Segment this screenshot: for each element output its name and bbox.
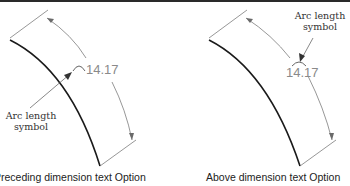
leader-line-right <box>302 38 313 58</box>
dimension-text-right: 14.17 <box>286 65 319 80</box>
dimension-arc-lower-left <box>112 82 132 140</box>
dimension-arc-lower-right <box>308 76 332 140</box>
left-panel <box>10 10 136 166</box>
leader-line-left <box>30 74 70 108</box>
caption-left: Preceding dimension text Option <box>0 171 146 183</box>
dimension-text-left: 14.17 <box>86 62 119 77</box>
dimension-arc-upper-right <box>246 18 290 58</box>
extension-line-bottom-left <box>100 140 136 166</box>
extension-line-top-left <box>10 10 48 38</box>
dimension-arc-upper-left <box>47 18 86 58</box>
arc-length-symbol-left <box>73 66 85 71</box>
callout-line1-left: Arc length <box>5 110 57 121</box>
callout-line1-right: Arc length <box>294 10 346 21</box>
right-panel <box>209 10 336 166</box>
caption-right: Above dimension text Option <box>206 171 340 183</box>
extension-line-top-right <box>209 10 247 38</box>
object-arc-right <box>209 40 300 166</box>
extension-line-bottom-right <box>300 140 336 166</box>
callout-line2-right: symbol <box>303 21 337 32</box>
object-arc-left <box>10 40 100 166</box>
diagram-canvas: 14.17 Arc length symbol 14.17 Arc length… <box>0 0 350 186</box>
callout-line2-left: symbol <box>14 121 48 132</box>
leader-arrowhead-left <box>64 72 72 80</box>
